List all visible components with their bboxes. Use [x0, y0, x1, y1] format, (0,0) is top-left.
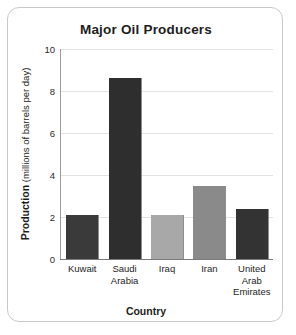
bar-united-arab-emirates	[236, 209, 269, 259]
y-axis-tick-label: 8	[50, 86, 55, 97]
y-axis-tick-label: 10	[44, 44, 55, 55]
category-label-line: Saudi	[112, 263, 136, 274]
y-axis-title-unit: (millions of barrels per day)	[20, 68, 31, 185]
category-label-line: Kuwait	[68, 263, 97, 274]
bars-layer	[61, 49, 273, 259]
y-axis-tick-label: 0	[50, 254, 55, 265]
category-label-line: United	[238, 263, 265, 274]
bar-iraq	[151, 215, 184, 259]
bar-saudi-arabia	[109, 78, 142, 259]
x-axis-title: Country	[8, 305, 284, 317]
category-label-line: Emirates	[233, 286, 270, 297]
bar-iran	[193, 186, 226, 260]
bar-kuwait	[66, 215, 99, 259]
x-axis-category-label: UnitedArabEmirates	[227, 263, 277, 298]
category-label-line: Arabia	[111, 275, 138, 286]
y-axis-title-strong: Production	[19, 185, 31, 240]
category-label-line: Iraq	[159, 263, 175, 274]
x-axis-line	[60, 259, 273, 260]
chart-figure-frame: Major Oil Producers Production (millions…	[7, 7, 283, 322]
y-axis-title: Production (millions of barrels per day)	[19, 59, 31, 249]
y-axis-tick-label: 4	[50, 170, 55, 181]
chart-title: Major Oil Producers	[8, 22, 284, 37]
category-label-line: Arab	[242, 275, 262, 286]
y-axis-tick-label: 6	[50, 128, 55, 139]
plot-area: 0246810	[60, 49, 273, 260]
category-label-line: Iran	[201, 263, 217, 274]
y-axis-tick-label: 2	[50, 212, 55, 223]
